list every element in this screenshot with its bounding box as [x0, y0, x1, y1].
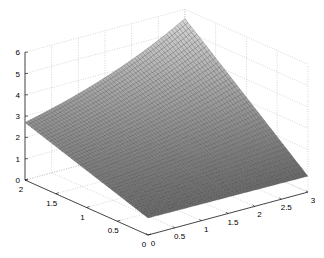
z-tick-label: 6 — [16, 48, 21, 57]
z-tick-label: 1 — [16, 155, 21, 164]
x-tick — [253, 205, 255, 207]
x-tick-label: 0 — [151, 239, 156, 248]
z-tick-label: 2 — [16, 133, 21, 142]
x-tick-label: 0.5 — [174, 232, 186, 241]
z-tick-label: 4 — [16, 91, 21, 100]
x-tick — [173, 226, 175, 228]
x-tick-label: 1.5 — [227, 218, 239, 227]
surface-mesh — [25, 19, 308, 218]
x-tick — [226, 212, 228, 214]
z-tick-label: 0 — [16, 176, 21, 185]
x-tick — [279, 198, 281, 200]
x-tick — [199, 219, 201, 221]
x-tick-label: 2.5 — [281, 203, 293, 212]
x-tick-label: 1 — [204, 225, 209, 234]
x-tick-label: 3 — [311, 196, 316, 205]
y-tick-label: 0 — [142, 240, 147, 249]
z-tick-label: 5 — [16, 70, 21, 79]
x-tick-label: 2 — [257, 210, 262, 219]
y-tick-label: 1 — [80, 213, 85, 222]
z-tick-label: 3 — [16, 112, 21, 121]
y-tick-label: 1.5 — [46, 199, 58, 208]
y-tick-label: 2 — [19, 185, 24, 194]
y-tick-label: 0.5 — [108, 226, 120, 235]
surface-plot: 012345600.511.5200.511.522.53 — [0, 0, 324, 258]
